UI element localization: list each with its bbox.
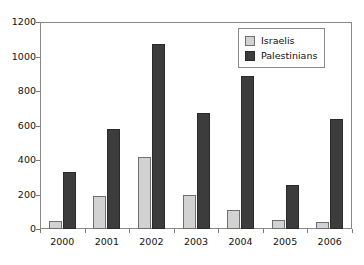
y-tick-label: 600 [0, 121, 36, 131]
bar-palestinians-2005[interactable] [286, 185, 299, 229]
x-tick-label: 2000 [40, 236, 85, 247]
bar-israelis-2005[interactable] [272, 220, 285, 229]
bar-palestinians-2003[interactable] [197, 113, 210, 229]
x-tick-mark [307, 229, 308, 233]
bar-palestinians-2000[interactable] [63, 172, 76, 229]
y-tick-mark [36, 91, 40, 92]
legend-item-israelis[interactable]: Israelis [245, 33, 317, 48]
x-tick-mark [85, 229, 86, 233]
bar-israelis-2006[interactable] [316, 222, 329, 229]
chart-legend: Israelis Palestinians [238, 28, 325, 68]
x-tick-label: 2002 [129, 236, 174, 247]
x-tick-mark [263, 229, 264, 233]
y-tick-label: 1000 [0, 52, 36, 62]
y-tick-mark [36, 160, 40, 161]
bar-israelis-2003[interactable] [183, 195, 196, 229]
legend-label-palestinians: Palestinians [261, 50, 317, 61]
chart-screenshot: 020040060080010001200 200020012002200320… [0, 0, 364, 265]
legend-label-israelis: Israelis [261, 35, 295, 46]
bar-palestinians-2002[interactable] [152, 44, 165, 229]
legend-item-palestinians[interactable]: Palestinians [245, 48, 317, 63]
x-tick-label: 2006 [307, 236, 352, 247]
y-tick-mark [36, 195, 40, 196]
x-tick-mark [352, 229, 353, 233]
y-tick-label: 200 [0, 190, 36, 200]
bar-palestinians-2006[interactable] [330, 119, 343, 229]
y-tick-label: 400 [0, 155, 36, 165]
y-tick-mark [36, 22, 40, 23]
x-tick-mark [129, 229, 130, 233]
x-tick-label: 2004 [218, 236, 263, 247]
y-axis: 020040060080010001200 [0, 0, 36, 265]
x-tick-label: 2005 [263, 236, 308, 247]
y-tick-mark [36, 126, 40, 127]
x-tick-mark [40, 229, 41, 233]
y-tick-mark [36, 57, 40, 58]
y-tick-label: 0 [0, 224, 36, 234]
y-tick-label: 800 [0, 86, 36, 96]
bar-israelis-2002[interactable] [138, 157, 151, 229]
bar-palestinians-2004[interactable] [241, 76, 254, 229]
legend-swatch-israelis-icon [245, 36, 255, 46]
bar-israelis-2000[interactable] [49, 221, 62, 229]
y-tick-label: 1200 [0, 17, 36, 27]
x-tick-mark [174, 229, 175, 233]
legend-swatch-palestinians-icon [245, 51, 255, 61]
bar-israelis-2001[interactable] [93, 196, 106, 229]
bar-israelis-2004[interactable] [227, 210, 240, 229]
x-tick-label: 2003 [174, 236, 219, 247]
bar-palestinians-2001[interactable] [107, 129, 120, 229]
x-tick-mark [218, 229, 219, 233]
x-tick-label: 2001 [85, 236, 130, 247]
